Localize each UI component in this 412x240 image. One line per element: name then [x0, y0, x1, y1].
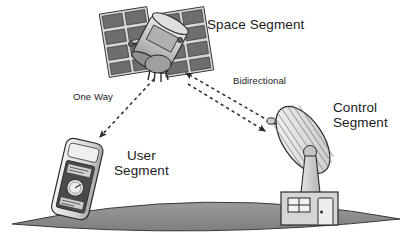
label-space-segment: Space Segment	[207, 17, 304, 32]
link-one-way	[100, 79, 154, 137]
label-one-way: One Way	[73, 92, 113, 103]
satellite-system-diagram: Space Segment Control Segment User Segme…	[0, 0, 412, 240]
label-user-segment: User Segment	[114, 148, 169, 178]
gps-receiver-icon	[50, 137, 105, 222]
label-bidirectional: Bidirectional	[233, 76, 286, 87]
label-control-segment: Control Segment	[333, 100, 388, 130]
satellite-icon	[99, 7, 213, 82]
